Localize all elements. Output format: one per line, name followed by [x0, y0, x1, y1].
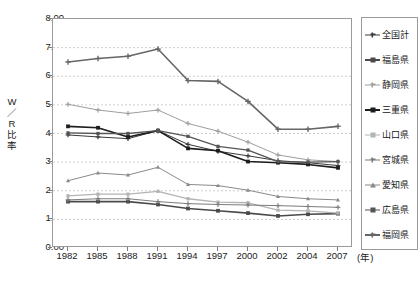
legend-item[interactable]: 静岡県 [362, 72, 417, 97]
legend-item-label: 福島県 [382, 53, 408, 66]
data-point-plus [246, 140, 251, 145]
x-axis-tick-label: 1988 [116, 250, 137, 261]
data-point-plus [246, 153, 251, 158]
legend-item[interactable]: 福岡県 [362, 222, 417, 247]
data-point-square [306, 160, 309, 163]
data-point-square [126, 132, 129, 135]
x-axis-tick-mark [217, 247, 218, 251]
data-point-plus [126, 111, 131, 116]
chart-container: W ／ R 比 率 0.001.002.003.004.005.006.007.… [0, 0, 420, 287]
legend-marker-icon [365, 205, 380, 215]
series-path [68, 49, 338, 129]
legend-item[interactable]: 広島県 [362, 197, 417, 222]
x-axis-tick-label: 2007 [326, 250, 347, 261]
y-axis-label-char-5: 率 [2, 140, 22, 151]
series-path [68, 131, 338, 166]
data-point-square [216, 149, 220, 153]
data-point-square [246, 211, 250, 215]
y-axis-label-char-3: R [2, 118, 22, 129]
plot-area [52, 18, 352, 247]
data-point-square [156, 190, 159, 193]
data-point-square [246, 160, 250, 164]
x-axis-tick-mark [157, 247, 158, 251]
x-axis-tick-mark [247, 247, 248, 251]
data-point-square [186, 146, 190, 150]
legend-item-label: 愛知県 [382, 178, 408, 191]
data-point-square [276, 214, 280, 218]
legend-marker-icon [365, 80, 380, 90]
legend-item[interactable]: 宮城県 [362, 147, 417, 172]
data-point-square [96, 193, 99, 196]
legend-marker-icon [365, 105, 380, 115]
legend-marker-icon [365, 30, 380, 40]
series-line [66, 165, 340, 201]
data-point-square [276, 160, 279, 163]
legend-item-label: 全国計 [382, 28, 408, 41]
series-path [68, 131, 338, 162]
series-path [68, 167, 338, 200]
data-point-square [96, 126, 100, 130]
data-point-plus [336, 205, 341, 210]
series-line [66, 200, 340, 218]
data-point-plus [306, 204, 311, 209]
data-point-plus [96, 108, 101, 113]
data-point-plus [276, 153, 281, 158]
y-axis-label-char-2: ／ [2, 107, 22, 118]
x-axis-tick-label: 1991 [146, 250, 167, 261]
data-point-square [306, 212, 310, 216]
data-point-square [126, 193, 129, 196]
data-point-plus [305, 126, 310, 131]
data-point-plus [95, 56, 100, 61]
legend-item[interactable]: 山口県 [362, 122, 417, 147]
legend-item-label: 三重県 [382, 103, 408, 116]
x-axis-tick-label: 2004 [296, 250, 317, 261]
data-point-square [336, 160, 339, 163]
legend-item[interactable]: 全国計 [362, 22, 417, 47]
series-layer [53, 19, 353, 248]
data-point-square [306, 209, 309, 212]
data-point-square [66, 131, 69, 134]
data-point-plus [65, 59, 70, 64]
data-point-plus [186, 201, 191, 206]
x-axis-tick-mark [337, 247, 338, 251]
data-point-square [66, 194, 69, 197]
y-axis-label-char-4: 比 [2, 129, 22, 140]
x-axis-tick-label: 1982 [56, 250, 77, 261]
legend-item[interactable]: 愛知県 [362, 172, 417, 197]
data-point-square [186, 197, 189, 200]
series-line [65, 46, 340, 132]
data-point-triangle [156, 165, 160, 169]
x-axis-tick-mark [307, 247, 308, 251]
data-point-square [216, 209, 220, 213]
data-point-plus [156, 108, 161, 113]
legend-marker-icon [365, 180, 380, 190]
legend-marker-icon [365, 230, 380, 240]
data-point-square [156, 129, 159, 132]
data-point-square [186, 135, 189, 138]
x-axis-tick-label: 2002 [266, 250, 287, 261]
data-point-plus [276, 203, 281, 208]
data-point-plus [216, 129, 221, 134]
data-point-square [336, 166, 340, 170]
x-axis-unit-label: (年) [357, 250, 373, 264]
data-point-square [336, 211, 339, 214]
data-point-plus [125, 53, 130, 58]
legend-item[interactable]: 三重県 [362, 97, 417, 122]
x-axis-tick-mark [67, 247, 68, 251]
legend-item[interactable]: 福島県 [362, 47, 417, 72]
legend-marker-icon [365, 155, 380, 165]
x-axis-tick-label: 1985 [86, 250, 107, 261]
data-point-square [186, 207, 190, 211]
y-axis-tick-mark [48, 247, 52, 248]
x-axis-tick-mark [97, 247, 98, 251]
data-point-square [126, 135, 130, 139]
legend-item-label: 山口県 [382, 128, 408, 141]
legend-item-label: 福岡県 [382, 228, 408, 241]
legend-marker-icon [365, 130, 380, 140]
x-axis-tick-label: 1994 [176, 250, 197, 261]
legend-marker-icon [365, 55, 380, 65]
data-point-plus [186, 142, 191, 147]
data-point-square [276, 209, 279, 212]
x-axis-tick-label: 1997 [206, 250, 227, 261]
data-point-square [246, 148, 249, 151]
